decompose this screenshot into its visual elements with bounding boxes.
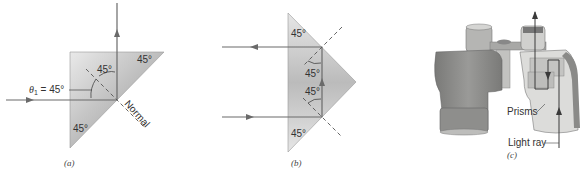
arrow-up-icon [532, 11, 538, 19]
theta-label: θ1 = 45° [29, 84, 64, 96]
normal-label: Normal [123, 98, 153, 129]
arrow-right-icon [246, 114, 254, 120]
angle-label-reflection: 45° [97, 64, 112, 75]
caption-a: (a) [64, 158, 75, 168]
panel-c: Prisms Light ray (c) [435, 11, 580, 160]
angle-label-lower-inner: 45° [305, 86, 320, 97]
panel-a: 45° 45° 45° θ1 = 45° Normal (a) [6, 3, 164, 168]
angle-label-bottom: 45° [291, 128, 306, 139]
prisms-label: Prisms [507, 106, 538, 117]
caption-b: (b) [291, 158, 302, 168]
focus-wheel [497, 40, 511, 45]
left-eyepiece-rim [466, 24, 492, 30]
left-objective [440, 108, 488, 132]
angle-label-bottom: 45° [73, 123, 88, 134]
angle-label-top: 45° [137, 54, 152, 65]
right-eyepiece-band [523, 27, 543, 33]
arrow-left-icon [250, 44, 258, 50]
arrow-right-icon [26, 97, 34, 103]
arrow-up-icon [114, 29, 120, 37]
light-ray-label: Light ray [508, 137, 546, 148]
panel-b: 45° 45° 45° 45° (b) [222, 13, 356, 168]
figure-canvas: 45° 45° 45° θ1 = 45° Normal (a) 45° 45° … [0, 0, 582, 172]
caption-c: (c) [507, 150, 517, 160]
angle-label-upper-inner: 45° [305, 68, 320, 79]
angle-label-top: 45° [291, 28, 306, 39]
left-objective-rim [440, 129, 488, 135]
